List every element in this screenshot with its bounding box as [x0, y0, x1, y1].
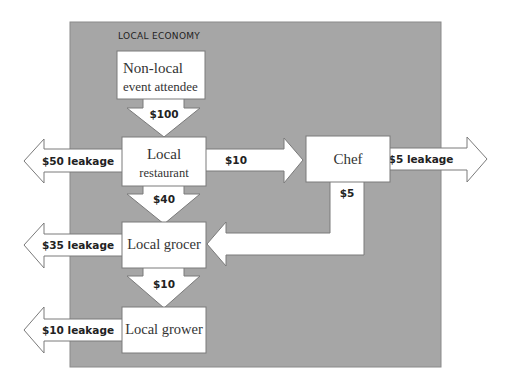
node-grocer-label: Local grocer: [127, 236, 201, 252]
local-economy-diagram: LOCAL ECONOMY $50 leakage $35 leakage $1…: [0, 0, 505, 387]
node-restaurant-line2: restaurant: [139, 166, 189, 180]
flow-label-grocer-to-grower: $10: [153, 278, 175, 290]
flow-label-attendee-to-restaurant: $100: [149, 108, 178, 120]
leakage-label-grower: $10 leakage: [42, 324, 114, 336]
flow-label-chef-to-grocer: $5: [340, 187, 355, 199]
node-chef-label: Chef: [333, 151, 362, 167]
flow-label-restaurant-to-chef: $10: [225, 154, 247, 166]
node-grower-label: Local grower: [125, 321, 203, 337]
flow-label-restaurant-to-grocer: $40: [153, 193, 175, 205]
node-attendee-line2: event attendee: [123, 79, 198, 94]
leakage-label-chef: $5 leakage: [389, 153, 454, 165]
region-label: LOCAL ECONOMY: [118, 31, 200, 41]
leakage-label-restaurant: $50 leakage: [42, 155, 114, 167]
node-attendee-line1: Non-local: [123, 60, 183, 76]
leakage-label-grocer: $35 leakage: [42, 239, 114, 251]
node-restaurant-line1: Local: [147, 146, 181, 162]
